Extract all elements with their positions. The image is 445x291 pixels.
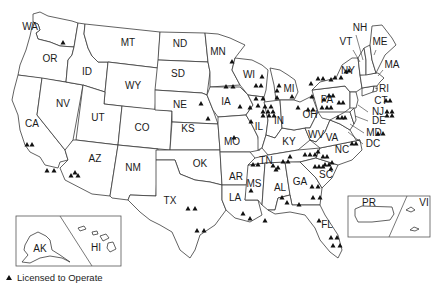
label-vi: VI [419, 197, 428, 208]
label-nc: NC [335, 144, 349, 155]
label-fl: FL [321, 219, 333, 230]
label-ks: KS [181, 123, 195, 134]
label-wi: WI [243, 69, 255, 80]
label-sd: SD [171, 68, 185, 79]
label-tn: TN [259, 155, 272, 166]
us-map: WAORCANVIDMTWYUTCOAZNMNDSDNEKSOKTXMNIAMO… [0, 0, 445, 291]
triangle-marker-icon [390, 109, 395, 114]
label-ne: NE [173, 99, 187, 110]
label-ri: RI [379, 83, 389, 94]
triangle-marker-icon [6, 275, 12, 280]
label-ia: IA [221, 96, 231, 107]
label-de: DE [372, 115, 386, 126]
triangle-marker-icon [309, 81, 314, 86]
triangle-marker-icon [316, 76, 321, 81]
label-ms: MS [247, 178, 262, 189]
legend: Licensed to Operate [6, 272, 103, 283]
state-ks [170, 122, 220, 150]
triangle-marker-icon [52, 168, 57, 173]
label-wy: WY [125, 80, 141, 91]
label-ca: CA [25, 118, 39, 129]
label-vt: VT [340, 36, 353, 47]
label-nv: NV [56, 98, 70, 109]
legend-label: Licensed to Operate [17, 272, 103, 283]
label-nm: NM [125, 162, 141, 173]
label-id: ID [82, 66, 92, 77]
label-va: VA [326, 132, 339, 143]
label-mn: MN [210, 46, 226, 57]
hawaii-island-2 [92, 231, 98, 235]
label-dc: DC [366, 138, 380, 149]
inset-puerto-rico-vi: PR VI [348, 196, 430, 237]
triangle-marker-icon [45, 168, 50, 173]
label-ar: AR [229, 171, 243, 182]
state-ri [373, 86, 377, 92]
label-mt: MT [121, 37, 135, 48]
label-al: AL [274, 182, 287, 193]
triangle-marker-icon [263, 218, 268, 223]
label-hi: HI [91, 242, 101, 253]
label-mo: MO [224, 136, 240, 147]
label-wv: WV [308, 129, 324, 140]
label-wa: WA [22, 21, 38, 32]
label-sc: SC [319, 169, 333, 180]
label-ky: KY [282, 136, 296, 147]
triangle-marker-icon [385, 109, 390, 114]
label-mi: MI [283, 83, 294, 94]
label-nd: ND [173, 38, 187, 49]
label-az: AZ [89, 153, 102, 164]
label-md: MD [366, 127, 382, 138]
puerto-rico-shape [355, 206, 394, 222]
label-pr: PR [362, 197, 376, 208]
label-ok: OK [193, 158, 208, 169]
triangle-marker-icon [321, 76, 326, 81]
label-co: CO [135, 122, 150, 133]
label-il: IL [255, 121, 264, 132]
label-tx: TX [164, 195, 177, 206]
label-ma: MA [385, 59, 400, 70]
label-ut: UT [91, 112, 104, 123]
inset-alaska-hawaii: AK HI [16, 216, 121, 266]
label-la: LA [229, 192, 242, 203]
state-nj [350, 92, 358, 108]
state-az [60, 140, 118, 196]
triangle-marker-icon [388, 98, 393, 103]
label-ak: AK [33, 243, 47, 254]
triangle-marker-icon [390, 113, 395, 118]
label-nh: NH [353, 22, 367, 33]
label-me: ME [373, 36, 388, 47]
label-or: OR [43, 53, 58, 64]
label-ga: GA [293, 176, 308, 187]
